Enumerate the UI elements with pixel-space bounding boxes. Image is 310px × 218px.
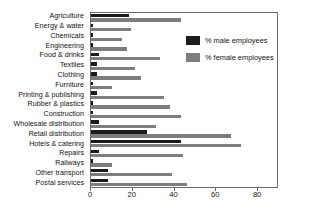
bar-group	[91, 110, 277, 120]
x-tick-label: 40	[169, 190, 177, 199]
bar	[91, 38, 122, 41]
category-label: Energy & water	[0, 22, 87, 32]
chart-legend: % male employees% female employees	[186, 36, 274, 62]
bar	[91, 47, 127, 50]
bar	[91, 86, 112, 89]
bar	[91, 53, 99, 56]
x-tick-label: 60	[211, 190, 219, 199]
bar	[91, 14, 129, 17]
legend-swatch-female	[186, 53, 200, 62]
bar	[91, 82, 93, 85]
bar-group	[91, 119, 277, 129]
bar-group	[91, 13, 277, 23]
x-tick-label: 80	[253, 190, 261, 199]
category-label: Postal services	[0, 178, 87, 188]
bar	[91, 183, 187, 186]
bar	[91, 130, 147, 133]
bar	[91, 120, 99, 123]
bar	[91, 33, 93, 36]
bar-group	[91, 177, 277, 187]
bar	[91, 76, 141, 79]
bar	[91, 91, 97, 94]
bar	[91, 125, 156, 128]
bar	[91, 57, 160, 60]
bar	[91, 179, 108, 182]
bar	[91, 140, 181, 143]
category-label: Repairs	[0, 149, 87, 159]
legend-label: % female employees	[205, 53, 274, 62]
category-label: Other transport	[0, 169, 87, 179]
bar-group	[91, 23, 277, 33]
legend-label: % male employees	[205, 36, 267, 45]
bar-group	[91, 129, 277, 139]
bar	[91, 144, 241, 147]
category-label: Hotels & catering	[0, 139, 87, 149]
bar-chart: AgricultureEnergy & waterChemicalsEngine…	[0, 0, 310, 218]
bar	[91, 173, 172, 176]
bar	[91, 134, 231, 137]
bar-group	[91, 148, 277, 158]
category-label: Wholesale distribution	[0, 120, 87, 130]
bar-group	[91, 71, 277, 81]
category-label: Rubber & plastics	[0, 100, 87, 110]
category-label: Agriculture	[0, 12, 87, 22]
bar-group	[91, 139, 277, 149]
bar	[91, 67, 135, 70]
bar	[91, 43, 93, 46]
bar	[91, 169, 108, 172]
x-tick-label: 0	[88, 190, 92, 199]
category-label: Construction	[0, 110, 87, 120]
bar	[91, 150, 99, 153]
legend-item: % female employees	[186, 53, 274, 62]
category-label: Railways	[0, 159, 87, 169]
bar	[91, 101, 93, 104]
bar	[91, 115, 181, 118]
category-axis: AgricultureEnergy & waterChemicalsEngine…	[0, 12, 87, 188]
category-label: Furniture	[0, 80, 87, 90]
bar-group	[91, 168, 277, 178]
bar	[91, 24, 93, 27]
bar-group	[91, 158, 277, 168]
bar	[91, 111, 93, 114]
bar-group	[91, 100, 277, 110]
bar	[91, 62, 97, 65]
bar	[91, 159, 93, 162]
bar	[91, 154, 183, 157]
category-label: Retail distribution	[0, 129, 87, 139]
x-tick-label: 20	[128, 190, 136, 199]
legend-swatch-male	[186, 36, 200, 45]
bar	[91, 96, 164, 99]
bar	[91, 72, 97, 75]
x-axis-labels: 020406080	[0, 190, 310, 204]
bar-group	[91, 61, 277, 71]
legend-item: % male employees	[186, 36, 274, 45]
bar-group	[91, 81, 277, 91]
category-label: Textiles	[0, 61, 87, 71]
category-label: Food & drinks	[0, 51, 87, 61]
bar-group	[91, 90, 277, 100]
bar	[91, 163, 112, 166]
bar	[91, 105, 170, 108]
category-label: Printing & publishing	[0, 90, 87, 100]
category-label: Engineering	[0, 41, 87, 51]
bar	[91, 28, 131, 31]
category-label: Chemicals	[0, 32, 87, 42]
category-label: Clothing	[0, 71, 87, 81]
bar	[91, 18, 181, 21]
